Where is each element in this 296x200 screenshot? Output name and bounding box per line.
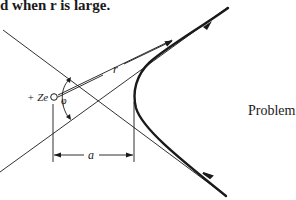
asymptote-descending (3, 30, 226, 196)
figure-caption: Problem 19.2 (248, 103, 296, 119)
angle-label: φ (61, 95, 67, 106)
hyperbolic-orbit-diagram: + Ze r φ a (0, 0, 296, 200)
charge-label: + Ze (27, 91, 48, 103)
dimension-arrow-left (54, 153, 61, 158)
diagram-figure: d when r is large. (0, 0, 296, 200)
nucleus-circle (51, 94, 58, 101)
distance-label: r (113, 62, 118, 76)
hyperbolic-trajectory (135, 8, 228, 196)
dimension-arrow-right (126, 153, 133, 158)
dimension-label: a (88, 148, 94, 162)
